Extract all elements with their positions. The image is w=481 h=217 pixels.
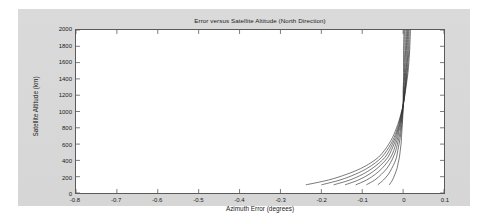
- x-axis-label: Azimuth Error (degrees): [75, 205, 445, 212]
- y-tick-label: 400: [62, 158, 72, 164]
- x-tick-label: -0.1: [358, 197, 368, 203]
- y-axis-tick-marks: [76, 30, 444, 193]
- y-tick-label: 800: [62, 125, 72, 131]
- y-tick-label: 1000: [59, 109, 72, 115]
- figure-window: Error versus Satellite Altitude (North D…: [0, 0, 481, 217]
- x-tick-label: -0.3: [275, 197, 285, 203]
- series-line: [321, 30, 409, 185]
- x-tick-label: 0: [402, 197, 405, 203]
- y-tick-label: 1800: [59, 43, 72, 49]
- y-tick-label: 1600: [59, 59, 72, 65]
- x-tick-label: 0.1: [441, 197, 449, 203]
- matlab-figure-canvas: Error versus Satellite Altitude (North D…: [18, 9, 470, 206]
- y-tick-label: 1200: [59, 92, 72, 98]
- y-tick-label: 600: [62, 142, 72, 148]
- y-axis-label: Satellite Altitude (km): [32, 57, 39, 157]
- x-tick-label: -0.7: [111, 197, 121, 203]
- y-tick-label: 1400: [59, 76, 72, 82]
- data-series-group: [306, 30, 411, 185]
- x-tick-label: -0.8: [70, 197, 80, 203]
- x-axis-tick-marks: [76, 30, 444, 193]
- chart-title: Error versus Satellite Altitude (North D…: [75, 17, 445, 24]
- series-line: [334, 30, 409, 185]
- y-axis-tick-labels: 0200400600800100012001400160018002000: [38, 29, 72, 194]
- x-tick-label: -0.6: [152, 197, 162, 203]
- x-tick-label: -0.4: [234, 197, 244, 203]
- x-tick-label: -0.5: [193, 197, 203, 203]
- plot-area: [75, 29, 445, 194]
- y-tick-label: 200: [62, 175, 72, 181]
- x-tick-label: -0.2: [316, 197, 326, 203]
- y-tick-label: 2000: [59, 26, 72, 32]
- plot-svg: [76, 30, 444, 193]
